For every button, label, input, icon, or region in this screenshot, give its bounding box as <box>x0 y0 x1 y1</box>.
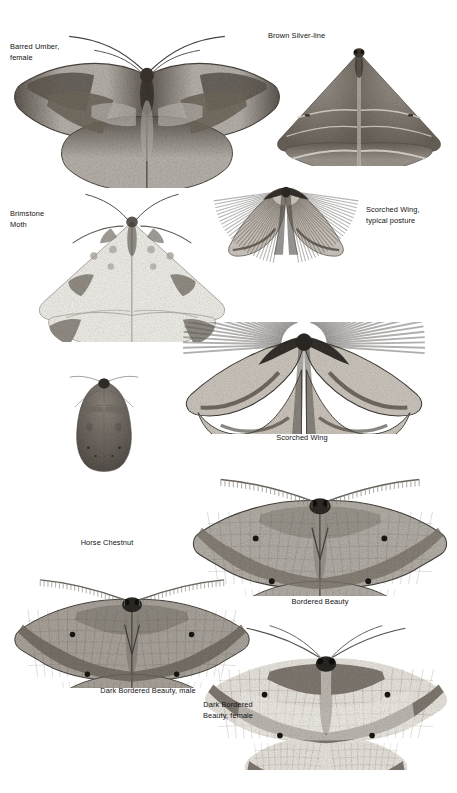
specimen-figure-dark-bordered-beauty-female <box>198 618 454 770</box>
specimen-caption-brimstone-moth: Brimstone Moth <box>10 209 44 230</box>
specimen-caption-bordered-beauty: Bordered Beauty <box>255 597 385 608</box>
specimen-caption-scorched-wing: Scorched Wing <box>232 433 372 444</box>
specimen-caption-scorched-wing-typical-posture: Scorched Wing, typical posture <box>366 205 420 226</box>
specimen-figure-brown-silver-line <box>266 38 452 166</box>
plate-page: Barred Umber, female <box>0 0 457 793</box>
specimen-caption-brown-silver-line: Brown Silver-line <box>268 31 325 42</box>
specimen-figure-scorched-wing <box>178 322 430 434</box>
specimen-caption-dark-bordered-beauty-female: Dark Bordered Beauty, female <box>172 700 284 721</box>
specimen-figure-scorched-wing-typical-posture <box>210 180 362 292</box>
specimen-caption-horse-chestnut: Horse Chestnut <box>42 538 172 549</box>
specimen-caption-barred-umber-female: Barred Umber, female <box>10 42 59 63</box>
specimen-figure-horse-chestnut <box>52 372 156 534</box>
specimen-figure-brimstone-moth <box>26 190 238 342</box>
